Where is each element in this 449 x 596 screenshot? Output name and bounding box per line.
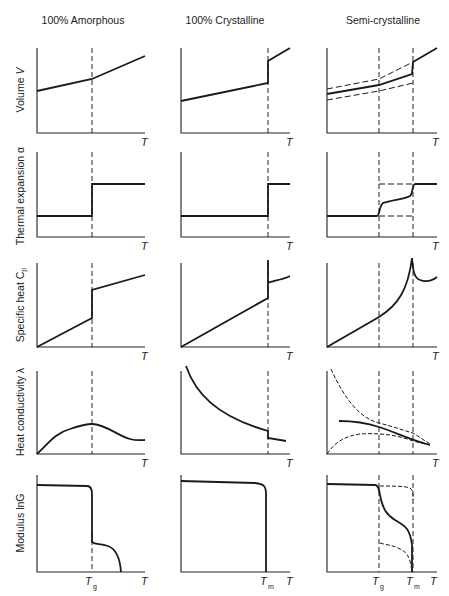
tm-subscript-col2: m xyxy=(268,583,274,590)
ref-volume-amorphous xyxy=(327,62,413,89)
ref-modulus-lower xyxy=(380,543,412,572)
x-label-T: T xyxy=(430,575,438,587)
x-label-T: T xyxy=(286,575,294,587)
x-label-T: T xyxy=(286,240,294,252)
curve-volume-semicrystalline xyxy=(327,48,437,94)
curve-cp-semicrystalline xyxy=(327,258,437,347)
transition-lines xyxy=(92,48,413,572)
curve-lambda-amorphous xyxy=(37,424,145,454)
curve-volume-crystalline xyxy=(181,48,290,101)
curve-alpha-amorphous xyxy=(37,184,145,216)
x-label-T: T xyxy=(286,350,294,362)
curve-modulus-semicrystalline xyxy=(327,484,412,572)
tg-label-col3: T xyxy=(372,575,380,587)
x-label-T: T xyxy=(432,457,440,469)
curves-specific-heat xyxy=(37,258,437,347)
x-label-T: T xyxy=(432,136,440,148)
tm-subscript-col3: m xyxy=(414,583,420,590)
x-axis-labels: T T T T T T T T T T T T T T T T g T m T … xyxy=(85,136,440,591)
curve-cp-amorphous xyxy=(37,275,145,347)
x-label-T: T xyxy=(141,350,149,362)
curves-volume-ref xyxy=(327,62,413,100)
tm-label-col2: T xyxy=(260,575,268,587)
axis-r1c1 xyxy=(37,48,145,133)
x-label-T: T xyxy=(141,136,149,148)
axis-r4c1 xyxy=(37,371,145,454)
x-label-T: T xyxy=(432,350,440,362)
x-label-T: T xyxy=(141,240,149,252)
curves-heat-conductivity xyxy=(37,366,430,454)
curve-modulus-crystalline xyxy=(181,481,266,572)
tm-label-col3: T xyxy=(406,575,414,587)
tg-subscript-col3: g xyxy=(380,583,384,591)
curve-alpha-crystalline xyxy=(181,184,290,216)
x-label-T: T xyxy=(432,240,440,252)
axis-r2c1 xyxy=(37,152,145,237)
curve-cp-crystalline xyxy=(181,260,290,347)
axis-r3c2 xyxy=(181,263,290,347)
x-label-T: T xyxy=(141,575,149,587)
axis-r2c2 xyxy=(181,152,290,237)
x-label-T: T xyxy=(286,136,294,148)
ref-lambda-crystalline xyxy=(331,369,430,444)
tg-label-col1: T xyxy=(85,575,93,587)
curve-lambda-crystalline xyxy=(186,366,286,441)
axis-r4c2 xyxy=(181,371,290,454)
axis-r5c3 xyxy=(327,475,437,572)
x-label-T: T xyxy=(286,457,294,469)
axis-r3c3 xyxy=(327,263,437,347)
curve-alpha-semicrystalline xyxy=(327,184,437,216)
curves-thermal-expansion xyxy=(37,184,437,216)
x-label-T: T xyxy=(141,457,149,469)
curves-modulus xyxy=(37,481,412,572)
tg-subscript-col1: g xyxy=(93,583,97,591)
axis-r2c3 xyxy=(327,152,437,237)
curve-modulus-amorphous xyxy=(37,485,121,572)
axes xyxy=(37,48,437,572)
axis-r5c2 xyxy=(181,475,290,572)
polymer-property-figure: 100% Amorphous 100% Crystalline Semi-cry… xyxy=(0,0,449,596)
axis-r3c1 xyxy=(37,263,145,347)
curve-volume-amorphous xyxy=(37,56,145,91)
ref-modulus-upper xyxy=(380,486,413,500)
plot-canvas: T T T T T T T T T T T T T T T T g T m T … xyxy=(0,0,449,596)
curves-volume xyxy=(37,48,437,101)
